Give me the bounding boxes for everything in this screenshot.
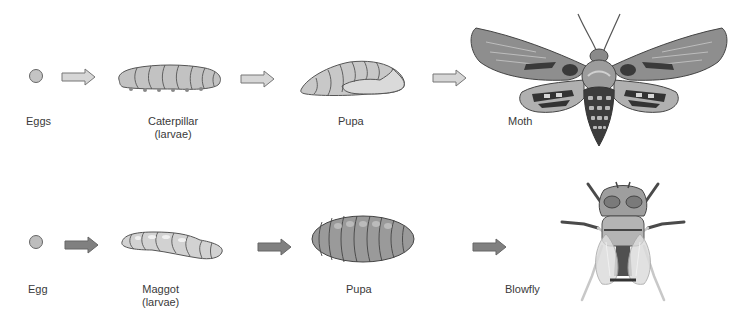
stage-label-pupa: Pupa: [346, 283, 372, 296]
stage-label-eggs: Eggs: [26, 115, 51, 128]
arrow-right-icon: [240, 70, 276, 88]
arrow-right-icon: [432, 69, 468, 87]
egg-icon: [28, 68, 44, 84]
stage-label-main: Maggot: [142, 283, 179, 296]
maggot-icon: [118, 228, 226, 264]
stage-label-caterpillar: Caterpillar (larvae): [148, 115, 198, 141]
caterpillar-icon: [115, 62, 225, 94]
stage-label-moth: Moth: [508, 115, 532, 128]
moth-pupa-icon: [298, 56, 410, 100]
stage-label-egg: Egg: [28, 283, 48, 296]
blowfly-icon: [558, 176, 688, 306]
stage-label-maggot: Maggot (larvae): [142, 283, 179, 309]
arrow-right-icon: [257, 238, 293, 256]
egg-icon: [28, 234, 44, 250]
stage-label-main: Caterpillar: [148, 115, 198, 128]
stage-label-sub: (larvae): [142, 296, 179, 309]
stage-label-pupa: Pupa: [338, 115, 364, 128]
arrow-right-icon: [472, 238, 508, 256]
arrow-right-icon: [64, 236, 100, 254]
moth-icon: [466, 12, 728, 148]
arrow-right-icon: [61, 68, 97, 86]
blowfly-pupa-icon: [310, 214, 416, 264]
stage-label-blowfly: Blowfly: [505, 283, 540, 296]
stage-label-sub: (larvae): [148, 128, 198, 141]
